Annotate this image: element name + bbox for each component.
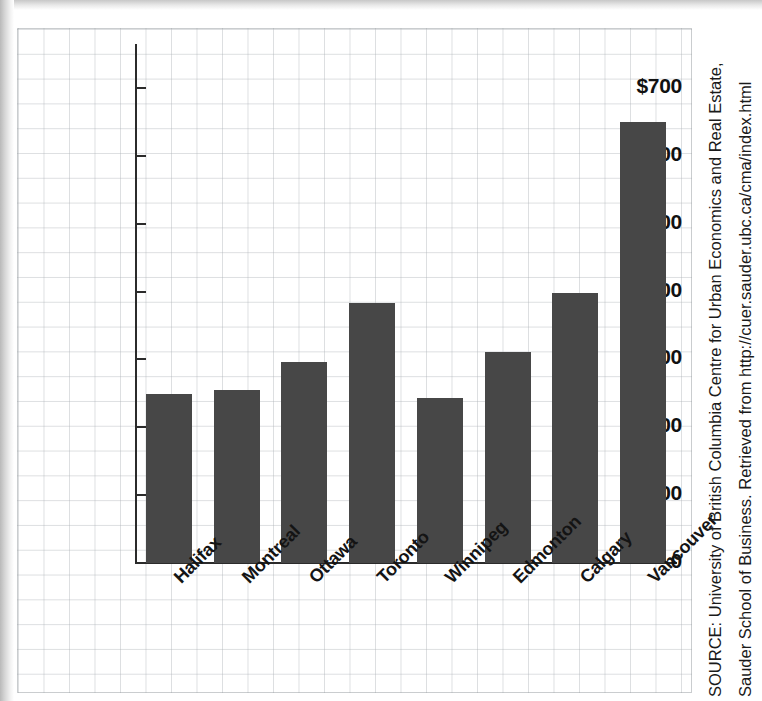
bar-toronto	[349, 303, 395, 563]
page-top-edge-shadow	[0, 0, 762, 10]
bar-chart: 0100200300400500600$700 HalifaxMontrealO…	[17, 28, 692, 693]
source-line-2: Sauder School of Business. Retrieved fro…	[730, 0, 760, 697]
bar-halifax	[146, 394, 192, 563]
source-line-1: SOURCE: University of British Columbia C…	[700, 0, 730, 697]
page-left-edge-shadow	[0, 0, 14, 701]
page-canvas: 0100200300400500600$700 HalifaxMontrealO…	[0, 0, 762, 701]
bar-montreal	[214, 390, 260, 563]
source-note: SOURCE: University of British Columbia C…	[700, 0, 762, 701]
bars-group	[135, 28, 677, 563]
bar-vancouver	[620, 122, 666, 563]
